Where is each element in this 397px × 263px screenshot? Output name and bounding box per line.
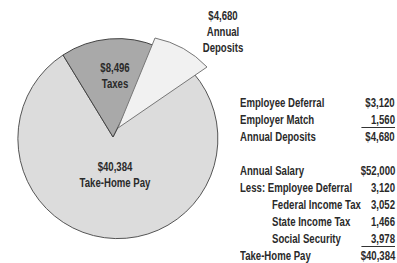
table-row: Federal Income Tax3,052 [240,198,395,215]
label-take-home: $40,384 Take-Home Pay [71,159,159,191]
table-row: Employee Deferral$3,120 [240,96,395,113]
table-row: Social Security3,978 [240,232,395,249]
table-row: Annual Deposits$4,680 [240,130,395,147]
table-row: Less: Employee Deferral3,120 [240,181,395,198]
table-row: Take-Home Pay$40,384 [240,249,395,263]
table-row: Employer Match1,560 [240,113,395,130]
salary-table: Annual Salary$52,000 Less: Employee Defe… [240,164,395,263]
table-row: State Income Tax1,466 [240,215,395,232]
deposits-table: Employee Deferral$3,120 Employer Match1,… [240,96,395,147]
label-taxes: $8,496 Taxes [87,60,143,92]
table-row: Annual Salary$52,000 [240,164,395,181]
label-deposits: $4,680 Annual Deposits [187,8,259,56]
